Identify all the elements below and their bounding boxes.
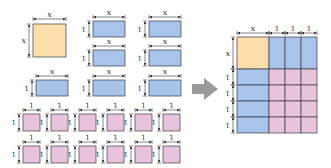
dimension-label: 1 xyxy=(57,134,61,142)
x-tile xyxy=(301,37,317,69)
dimension-label: 1 xyxy=(138,85,142,93)
dimension-label: 1 xyxy=(226,74,230,82)
unit-tile: 11 xyxy=(12,102,40,132)
unit-tile xyxy=(301,69,317,85)
unit-tile xyxy=(269,117,285,133)
x-tile: x1 xyxy=(25,67,68,97)
dimension-label: x xyxy=(50,67,55,76)
dimension-label: 1 xyxy=(12,151,16,159)
dimension-label: 1 xyxy=(85,134,89,142)
dimension-label: 1 xyxy=(226,122,230,130)
x-tile xyxy=(237,85,269,101)
unit-tile xyxy=(301,117,317,133)
dimension-label: 1 xyxy=(226,106,230,114)
dimension-label: 1 xyxy=(40,151,44,159)
unit-tile xyxy=(285,117,301,133)
dimension-label: x xyxy=(251,24,256,33)
x-tile: x1 xyxy=(82,37,125,67)
x-tile: x1 xyxy=(138,8,181,38)
algebra-tiles-diagram: xxx1x1x1x1x1x1x1111111111111111111111111… xyxy=(0,0,331,168)
dimension-label: 1 xyxy=(68,151,72,159)
unit-tile: 11 xyxy=(12,134,40,164)
unit-tile: 11 xyxy=(152,134,180,164)
x-tile xyxy=(237,117,269,133)
x-squared-tile xyxy=(237,37,269,69)
dimension-label: x xyxy=(107,8,112,17)
unit-tile xyxy=(285,101,301,117)
unit-tile: 11 xyxy=(96,102,124,132)
dimension-label: 1 xyxy=(85,102,89,110)
dimension-label: x xyxy=(163,67,168,76)
dimension-label: 1 xyxy=(96,119,100,127)
x-tile xyxy=(269,37,285,69)
separate-tiles: xxx1x1x1x1x1x1x1111111111111111111111111 xyxy=(12,8,181,164)
dimension-label: 1 xyxy=(82,26,86,34)
unit-tile: 11 xyxy=(152,102,180,132)
dimension-label: 1 xyxy=(226,90,230,98)
x-tile xyxy=(237,69,269,85)
x-squared-tile: xx xyxy=(21,10,66,58)
dimension-label: 1 xyxy=(57,102,61,110)
unit-tile xyxy=(285,69,301,85)
unit-tile: 11 xyxy=(96,134,124,164)
dimension-label: 1 xyxy=(12,119,16,127)
unit-tile xyxy=(269,69,285,85)
dimension-label: 1 xyxy=(29,102,33,110)
x-tile: x1 xyxy=(82,67,125,97)
dimension-label: 1 xyxy=(138,26,142,34)
x-tile xyxy=(285,37,301,69)
x-tile: x1 xyxy=(138,37,181,67)
unit-tile xyxy=(301,101,317,117)
assembled-rectangle: x111x1111 xyxy=(225,24,317,134)
dimension-label: 1 xyxy=(152,151,156,159)
dimension-label: x xyxy=(47,10,52,19)
x-tile: x1 xyxy=(82,8,125,38)
dimension-label: 1 xyxy=(138,55,142,63)
dimension-label: 1 xyxy=(40,119,44,127)
dimension-label: x xyxy=(163,37,168,46)
dimension-label: 1 xyxy=(68,119,72,127)
dimension-label: 1 xyxy=(96,151,100,159)
dimension-label: 1 xyxy=(275,25,279,33)
dimension-label: 1 xyxy=(307,25,311,33)
dimension-label: 1 xyxy=(169,102,173,110)
unit-tile xyxy=(269,85,285,101)
dimension-label: 1 xyxy=(291,25,295,33)
dimension-label: x xyxy=(163,8,168,17)
dimension-label: 1 xyxy=(141,134,145,142)
dimension-label: 1 xyxy=(124,151,128,159)
unit-tile: 11 xyxy=(68,134,96,164)
unit-tile: 11 xyxy=(68,102,96,132)
dimension-label: 1 xyxy=(124,119,128,127)
unit-tile: 11 xyxy=(40,102,68,132)
transform-arrow-icon xyxy=(192,78,218,100)
dimension-label: 1 xyxy=(82,85,86,93)
unit-tile: 11 xyxy=(124,134,152,164)
dimension-label: 1 xyxy=(113,102,117,110)
dimension-label: x xyxy=(225,49,230,58)
dimension-label: 1 xyxy=(29,134,33,142)
x-tile: x1 xyxy=(138,67,181,97)
unit-tile xyxy=(269,101,285,117)
unit-tile xyxy=(301,85,317,101)
dimension-label: 1 xyxy=(25,85,29,93)
unit-tile: 11 xyxy=(40,134,68,164)
dimension-label: x xyxy=(21,36,26,45)
unit-tile: 11 xyxy=(124,102,152,132)
dimension-label: 1 xyxy=(141,102,145,110)
unit-tile xyxy=(285,85,301,101)
dimension-label: 1 xyxy=(169,134,173,142)
dimension-label: 1 xyxy=(113,134,117,142)
dimension-label: x xyxy=(107,67,112,76)
x-tile xyxy=(237,101,269,117)
dimension-label: x xyxy=(107,37,112,46)
dimension-label: 1 xyxy=(82,55,86,63)
dimension-label: 1 xyxy=(152,119,156,127)
